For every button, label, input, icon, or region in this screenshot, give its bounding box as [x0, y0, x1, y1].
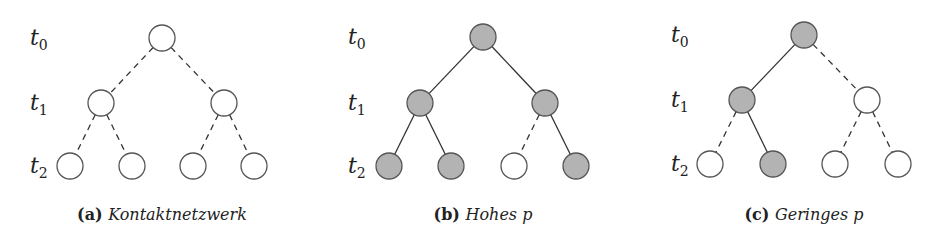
inactive-edge	[110, 47, 153, 93]
active-edge	[751, 44, 795, 90]
tree-figure: t0t1t2(a) Kontaktnetzwerkt0t1t2(b) Hohes…	[0, 0, 938, 244]
infected-node	[563, 153, 589, 179]
level-label-t2: t2	[348, 153, 366, 181]
susceptible-node	[697, 151, 723, 177]
level-label-t1: t1	[30, 90, 48, 118]
active-edge	[426, 115, 446, 155]
infected-node	[407, 90, 433, 116]
panel-b: t0t1t2(b) Hohes p	[348, 24, 589, 224]
inactive-edge	[230, 115, 249, 155]
level-label-t1: t1	[348, 90, 366, 118]
susceptible-node	[822, 151, 848, 177]
active-edge	[551, 115, 571, 155]
inactive-edge	[171, 47, 215, 93]
panel-caption: (c) Geringes p	[744, 205, 863, 224]
susceptible-node	[119, 153, 145, 179]
inactive-edge	[199, 115, 219, 155]
inactive-edge	[76, 115, 96, 155]
level-label-t2: t2	[671, 151, 689, 179]
susceptible-node	[180, 153, 206, 179]
panel-a: t0t1t2(a) Kontaktnetzwerk	[30, 25, 267, 224]
infected-node	[470, 24, 496, 50]
susceptible-node	[501, 153, 527, 179]
infected-node	[438, 153, 464, 179]
panel-caption: (a) Kontaktnetzwerk	[77, 205, 247, 224]
inactive-edge	[520, 115, 540, 155]
susceptible-node	[854, 87, 880, 113]
inactive-edge	[873, 112, 893, 153]
active-edge	[395, 115, 415, 155]
level-label-t0: t0	[348, 24, 366, 52]
level-label-t0: t0	[30, 25, 48, 53]
susceptible-node	[57, 153, 83, 179]
level-label-t1: t1	[671, 87, 689, 115]
panel-c: t0t1t2(c) Geringes p	[671, 22, 911, 224]
infected-node	[729, 87, 755, 113]
level-label-t2: t2	[30, 153, 48, 181]
inactive-edge	[716, 112, 736, 153]
active-edge	[748, 112, 768, 153]
infected-node	[376, 153, 402, 179]
inactive-edge	[107, 115, 127, 155]
panel-caption: (b) Hohes p	[434, 205, 533, 224]
active-edge	[492, 46, 536, 93]
inactive-edge	[813, 44, 858, 90]
inactive-edge	[841, 112, 861, 153]
infected-node	[791, 22, 817, 48]
infected-node	[760, 151, 786, 177]
level-label-t0: t0	[671, 22, 689, 50]
active-edge	[429, 46, 474, 93]
susceptible-node	[149, 25, 175, 51]
susceptible-node	[241, 153, 267, 179]
susceptible-node	[211, 90, 237, 116]
susceptible-node	[885, 151, 911, 177]
infected-node	[532, 90, 558, 116]
susceptible-node	[88, 90, 114, 116]
